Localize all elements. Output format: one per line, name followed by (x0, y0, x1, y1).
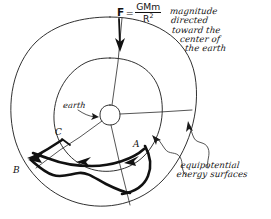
trajectory-a-riser (122, 146, 150, 194)
force-formula: F = GMm R2 (117, 2, 161, 23)
earth-circle (100, 105, 120, 125)
annotation-magnitude: magnitude directed toward the center of … (166, 7, 231, 53)
denominator-exponent: 2 (149, 12, 153, 19)
annotation-equipotential: equipotential energy surfaces (179, 161, 249, 180)
annotation-magnitude-line-5: the earth (185, 44, 227, 53)
annotation-equipotential-line-2: energy surfaces (176, 170, 248, 179)
point-label-c: C (55, 128, 62, 138)
equals-sign: = (126, 8, 134, 18)
radial-line-up (112, 18, 122, 105)
point-label-a: A (133, 140, 140, 150)
radial-line-right (120, 110, 192, 114)
force-fraction: GMm R2 (135, 2, 161, 23)
force-numerator: GMm (135, 2, 161, 13)
force-denominator: R2 (143, 13, 153, 24)
gravity-equipotential-diagram: F = GMm R2 magnitude directed toward the… (0, 0, 271, 219)
point-label-b: B (13, 166, 20, 176)
segment-c-to-b (34, 140, 62, 157)
diagram-canvas (0, 0, 271, 219)
earth-label: earth (63, 101, 87, 110)
force-symbol: F (117, 7, 124, 18)
inner-equipotential-circle (54, 58, 162, 171)
vertex-c-tick (62, 139, 70, 145)
